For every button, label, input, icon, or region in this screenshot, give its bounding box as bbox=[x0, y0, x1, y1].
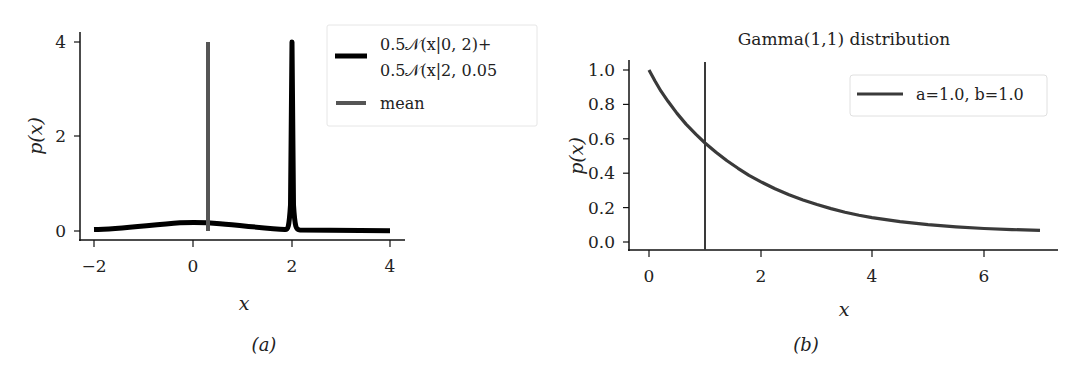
y-tick-label: 0.4 bbox=[588, 163, 615, 183]
y-ticks: 4 2 0 bbox=[55, 32, 80, 241]
y-ticks: 1.0 0.8 0.6 0.4 0.2 0.0 bbox=[588, 60, 629, 252]
panel-b: Gamma(1,1) distribution 1.0 0.8 0.6 0.4 … bbox=[565, 29, 1058, 355]
x-tick-label: 2 bbox=[287, 256, 298, 276]
x-axis-label: x bbox=[239, 292, 250, 314]
x-ticks: −2 0 2 4 bbox=[81, 240, 395, 276]
legend: a=1.0, b=1.0 bbox=[850, 75, 1047, 116]
panel-a: 4 2 0 −2 0 2 4 x p(x) 0.5𝒩(x|0, 2)+ 0.5𝒩… bbox=[24, 25, 537, 355]
chart-title: Gamma(1,1) distribution bbox=[738, 29, 951, 49]
y-tick-label: 0 bbox=[55, 221, 66, 241]
legend-mean-label: mean bbox=[380, 94, 424, 113]
legend-mixture-label-line1: 0.5𝒩(x|0, 2)+ bbox=[380, 35, 491, 54]
y-axis-label: p(x) bbox=[24, 117, 46, 155]
x-ticks: 0 2 4 6 bbox=[644, 250, 990, 286]
x-tick-label: 2 bbox=[756, 266, 767, 286]
y-tick-label: 1.0 bbox=[588, 60, 615, 80]
y-tick-label: 4 bbox=[55, 32, 66, 52]
y-tick-label: 2 bbox=[55, 126, 66, 146]
x-tick-label: 4 bbox=[385, 256, 396, 276]
legend: 0.5𝒩(x|0, 2)+ 0.5𝒩(x|2, 0.05 mean bbox=[327, 25, 537, 126]
caption-a: (a) bbox=[252, 334, 277, 355]
caption-b: (b) bbox=[793, 334, 819, 355]
y-tick-label: 0.2 bbox=[588, 198, 615, 218]
x-tick-label: 6 bbox=[979, 266, 990, 286]
y-tick-label: 0.8 bbox=[588, 94, 615, 114]
y-axis-label: p(x) bbox=[565, 137, 587, 175]
x-tick-label: 0 bbox=[644, 266, 655, 286]
legend-mixture-label-line2: 0.5𝒩(x|2, 0.05 bbox=[380, 61, 497, 80]
y-tick-label: 0.6 bbox=[588, 129, 615, 149]
x-axis-label: x bbox=[839, 298, 850, 320]
x-tick-label: 0 bbox=[188, 256, 199, 276]
x-tick-label: 4 bbox=[867, 266, 878, 286]
figure: 4 2 0 −2 0 2 4 x p(x) 0.5𝒩(x|0, 2)+ 0.5𝒩… bbox=[0, 0, 1074, 376]
x-tick-label: −2 bbox=[81, 256, 106, 276]
y-tick-label: 0.0 bbox=[588, 232, 615, 252]
legend-gamma-label: a=1.0, b=1.0 bbox=[916, 85, 1024, 104]
